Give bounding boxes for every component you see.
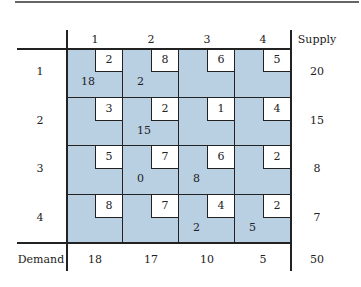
column-header: 1 — [67, 33, 123, 46]
table-cell: 5 — [67, 146, 123, 195]
cost-box: 2 — [263, 195, 290, 218]
allocation-value: 5 — [235, 221, 291, 234]
allocation-value: 18 — [67, 75, 123, 88]
demand-label: Demand — [15, 253, 67, 266]
row-label: 3 — [15, 162, 65, 175]
cost-box: 6 — [207, 49, 234, 72]
demand-value: 10 — [179, 253, 235, 266]
supply-rule — [290, 30, 292, 271]
table-cell: 215 — [123, 98, 179, 147]
demand-value: 18 — [67, 253, 123, 266]
allocation-value: 0 — [123, 172, 179, 185]
demand-value: 17 — [123, 253, 179, 266]
cost-box: 5 — [95, 146, 122, 169]
cost-box: 6 — [207, 146, 234, 169]
table-cell: 6 — [179, 49, 235, 98]
table-cell: 7 — [123, 195, 179, 244]
supply-value: 8 — [291, 162, 343, 175]
allocation-value: 2 — [123, 75, 179, 88]
table-cell: 70 — [123, 146, 179, 195]
cost-box: 8 — [95, 195, 122, 218]
table-cell: 1 — [179, 98, 235, 147]
table-cell: 218 — [67, 49, 123, 98]
header-rule — [17, 48, 291, 50]
allocation-value: 15 — [123, 124, 179, 137]
cost-box: 4 — [207, 195, 234, 218]
allocation-value: 8 — [179, 172, 235, 185]
table-cell: 68 — [179, 146, 235, 195]
table-cell: 4 — [235, 98, 291, 147]
cost-box: 1 — [207, 98, 234, 121]
table-cell: 2 — [235, 146, 291, 195]
table-cell: 3 — [67, 98, 123, 147]
cost-box: 2 — [95, 49, 122, 72]
top-rule — [15, 1, 359, 3]
supply-value: 7 — [291, 211, 343, 224]
column-header: 4 — [235, 33, 291, 46]
row-label: 2 — [15, 114, 65, 127]
column-header: 3 — [179, 33, 235, 46]
cost-box: 3 — [95, 98, 122, 121]
table-cell: 25 — [235, 195, 291, 244]
cost-box: 7 — [151, 146, 178, 169]
cost-box: 5 — [263, 49, 290, 72]
table-cell: 8 — [67, 195, 123, 244]
supply-value: 15 — [291, 114, 343, 127]
cost-box: 8 — [151, 49, 178, 72]
supply-value: 20 — [291, 65, 343, 78]
table-cell: 5 — [235, 49, 291, 98]
column-header: 2 — [123, 33, 179, 46]
cost-box: 7 — [151, 195, 178, 218]
allocation-value: 2 — [179, 221, 235, 234]
table-cell: 82 — [123, 49, 179, 98]
cost-box: 2 — [263, 146, 290, 169]
total-value: 50 — [291, 253, 343, 266]
row-label: 4 — [15, 211, 65, 224]
demand-value: 5 — [235, 253, 291, 266]
left-rule — [66, 30, 68, 271]
row-label: 1 — [15, 65, 65, 78]
table-cell: 42 — [179, 195, 235, 244]
cost-box: 2 — [151, 98, 178, 121]
demand-rule — [17, 242, 291, 244]
cost-box: 4 — [263, 98, 290, 121]
supply-header: Supply — [291, 33, 343, 46]
